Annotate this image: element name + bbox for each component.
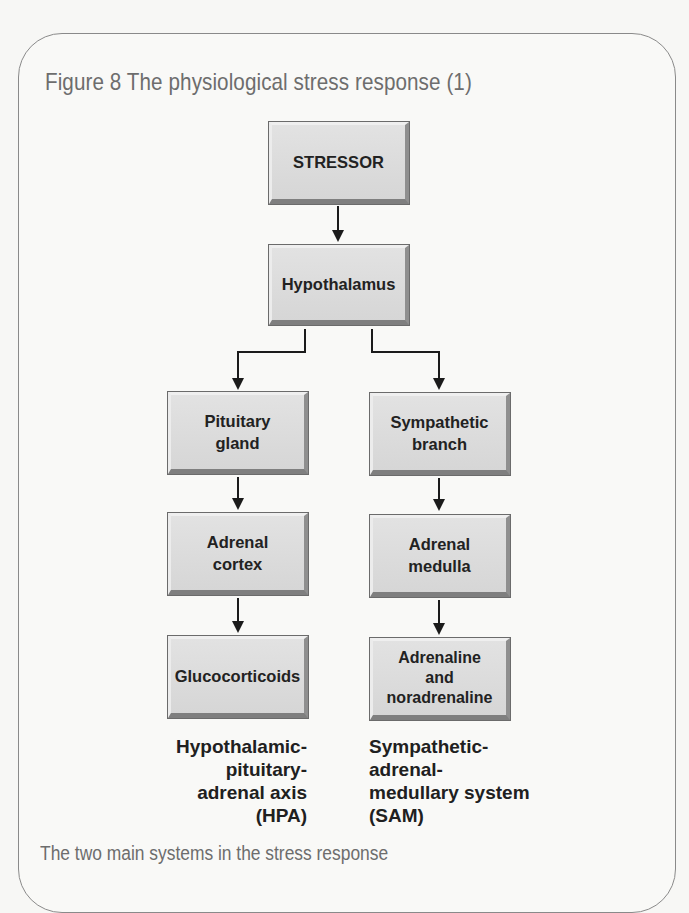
node-pituitary-gland: Pituitary gland (168, 392, 308, 474)
connector-pituitary-cortex (237, 477, 239, 499)
connector-segment (237, 351, 306, 353)
node-pituitary-gland-label: Pituitary gland (204, 410, 270, 454)
connector-segment (237, 351, 239, 379)
node-adrenal-cortex: Adrenal cortex (168, 513, 308, 595)
node-hypothalamus: Hypothalamus (269, 245, 409, 325)
label-sam-system: Sympathetic- adrenal- medullary system (… (369, 735, 530, 827)
connector-medulla-adrenaline (438, 600, 440, 624)
arrowhead-icon (332, 230, 344, 242)
arrowhead-icon (232, 621, 244, 633)
node-adrenaline-noradrenaline-label: Adrenaline and noradrenaline (387, 648, 493, 708)
node-glucocorticoids: Glucocorticoids (168, 636, 308, 718)
arrowhead-icon (232, 498, 244, 510)
node-adrenal-medulla: Adrenal medulla (370, 515, 510, 597)
label-hpa-axis: Hypothalamic- pituitary- adrenal axis (H… (176, 735, 307, 827)
connector-segment (371, 351, 440, 353)
node-adrenal-medulla-label: Adrenal medulla (408, 533, 470, 577)
arrowhead-icon (232, 378, 244, 390)
node-sympathetic-branch-label: Sympathetic branch (390, 411, 488, 455)
node-stressor: STRESSOR (269, 122, 409, 204)
arrowhead-icon (433, 499, 445, 511)
node-adrenaline-noradrenaline: Adrenaline and noradrenaline (370, 638, 510, 720)
connector-hypothalamus-pituitary (304, 329, 306, 353)
figure-caption: The two main systems in the stress respo… (40, 842, 388, 865)
node-stressor-label: STRESSOR (293, 151, 384, 173)
arrowhead-icon (433, 378, 445, 390)
node-hypothalamus-label: Hypothalamus (282, 273, 396, 295)
arrowhead-icon (433, 623, 445, 635)
connector-sympathetic-medulla (438, 478, 440, 500)
node-adrenal-cortex-label: Adrenal cortex (207, 531, 268, 575)
connector-segment (438, 351, 440, 379)
connector-cortex-glucocorticoids (237, 598, 239, 622)
node-sympathetic-branch: Sympathetic branch (370, 393, 510, 475)
node-glucocorticoids-label: Glucocorticoids (175, 665, 301, 687)
connector-stressor-hypothalamus (337, 206, 339, 232)
figure-title: Figure 8 The physiological stress respon… (45, 68, 472, 96)
connector-hypothalamus-sympathetic (371, 329, 373, 353)
